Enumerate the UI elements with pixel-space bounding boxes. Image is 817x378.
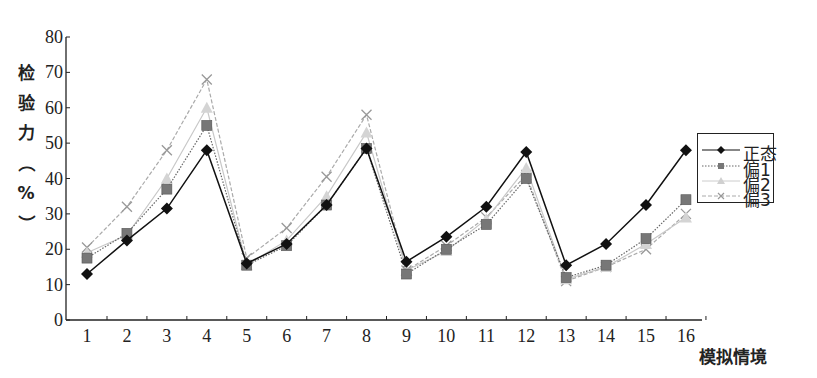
x-tick-label: 6: [282, 326, 291, 346]
square-marker-icon: [162, 184, 172, 194]
y-tick-label: 30: [45, 204, 63, 224]
legend-x-marker-icon: [698, 188, 743, 204]
x-tick-label: 13: [557, 326, 575, 346]
x-axis-title: 模拟情境: [699, 343, 767, 368]
y-tick-label: 20: [45, 239, 63, 259]
y-axis-title: 检验力（%）: [14, 58, 38, 238]
x-tick-label: 3: [162, 326, 171, 346]
square-marker-icon: [481, 219, 491, 229]
diamond-marker-icon: [201, 144, 213, 156]
x-tick-label: 4: [202, 326, 211, 346]
x-tick-label: 1: [83, 326, 92, 346]
y-axis-title-char: 验: [14, 88, 38, 118]
legend-square-marker-icon: [698, 158, 743, 174]
square-marker-icon: [601, 260, 611, 270]
x-tick-label: 5: [242, 326, 251, 346]
x-tick-label: 9: [402, 326, 411, 346]
y-tick-label: 0: [54, 310, 63, 330]
square-marker-icon: [561, 273, 571, 283]
line-chart: 0102030405060708012345678910111213141516: [0, 0, 817, 378]
square-marker-icon: [441, 244, 451, 254]
y-tick-label: 10: [45, 275, 63, 295]
y-tick-label: 60: [45, 98, 63, 118]
x-tick-label: 8: [362, 326, 371, 346]
square-marker-icon: [521, 174, 531, 184]
y-tick-label: 70: [45, 62, 63, 82]
y-axis-title-char: 检: [14, 58, 38, 88]
square-marker-icon: [641, 234, 651, 244]
legend-item-skew3: 偏3: [698, 188, 773, 204]
y-axis-title-char: %: [14, 178, 38, 208]
y-tick-label: 80: [45, 27, 63, 47]
x-tick-label: 10: [437, 326, 455, 346]
x-marker-icon: [322, 172, 332, 182]
square-marker-icon: [202, 120, 212, 130]
series-line-3: [87, 79, 686, 281]
y-axis-title-char: 力: [14, 118, 38, 148]
x-marker-icon: [202, 74, 212, 84]
x-marker-icon: [282, 223, 292, 233]
x-tick-label: 14: [597, 326, 615, 346]
diamond-marker-icon: [680, 144, 692, 156]
y-axis-title-char: ）: [11, 211, 41, 235]
x-marker-icon: [122, 202, 132, 212]
legend-diamond-marker-icon: [698, 142, 743, 158]
y-tick-label: 40: [45, 169, 63, 189]
legend-triangle-marker-icon: [698, 173, 743, 189]
x-tick-label: 2: [122, 326, 131, 346]
x-marker-icon: [162, 145, 172, 155]
y-axis-title-char: （: [11, 151, 41, 175]
x-tick-label: 16: [677, 326, 695, 346]
legend: 正态 偏1 偏2 偏3: [697, 133, 774, 203]
diamond-marker-icon: [520, 146, 532, 158]
x-tick-label: 11: [478, 326, 495, 346]
y-tick-label: 50: [45, 133, 63, 153]
triangle-marker-icon: [201, 102, 213, 113]
series-line-0: [87, 148, 686, 274]
x-tick-label: 15: [637, 326, 655, 346]
square-marker-icon: [681, 195, 691, 205]
square-marker-icon: [401, 269, 411, 279]
diamond-marker-icon: [480, 201, 492, 213]
x-tick-label: 7: [322, 326, 331, 346]
x-marker-icon: [362, 110, 372, 120]
x-tick-label: 12: [517, 326, 535, 346]
square-marker-icon: [82, 253, 92, 263]
